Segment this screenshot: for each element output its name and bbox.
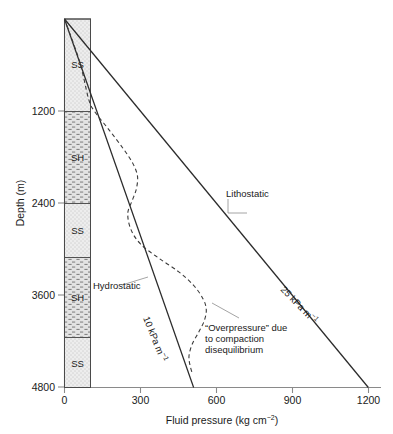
y-tick-label-1200: 1200 [32,105,56,117]
lithology-column: SS SH SS SH SS [65,19,91,388]
x-axis-title: Fluid pressure (kg cm−2) [166,414,278,426]
overpressure-label-line-1: “Overpressure” due [205,322,287,333]
hydrostatic-gradient-value: 10 kPa m [141,315,166,356]
y-axis-ticks: 1200 2400 3600 4800 [32,105,65,393]
x-tick-label-300: 300 [132,394,150,406]
y-tick-label-3600: 3600 [32,289,56,301]
lithology-label-ss-2: SS [71,225,84,236]
x-tick-label-600: 600 [208,394,226,406]
x-axis-ticks: 0 300 600 900 1200 [62,388,381,407]
lithostatic-leader [228,199,247,213]
hydrostatic-gradient-label: 10 kPa m−1 [141,314,170,363]
lithostatic-gradient-label: 25 kPa m−1 [279,283,321,326]
chart-figure: 1200 2400 3600 4800 0 300 600 900 1200 F… [0,0,393,434]
overpressure-label-line-3: disequilibrium [205,344,263,355]
lithology-label-ss-3: SS [71,358,84,369]
x-axis-title-tail: ) [275,414,279,426]
x-tick-label-900: 900 [284,394,302,406]
fluid-pressure-depth-chart: 1200 2400 3600 4800 0 300 600 900 1200 F… [0,0,393,434]
overpressure-label-line-2: to compaction [205,333,264,344]
x-tick-label-0: 0 [62,394,68,406]
lithostatic-label: Lithostatic [226,188,269,199]
annotations: Lithostatic Hydrostatic “Overpressure” d… [93,188,321,363]
y-tick-label-2400: 2400 [32,197,56,209]
lithostatic-gradient-value: 25 kPa m [279,284,315,321]
x-axis-title-superscript: −2 [267,414,275,421]
x-axis-title-main: Fluid pressure (kg cm [166,414,267,426]
lithology-label-sh-1: SH [71,152,84,163]
hydrostatic-label: Hydrostatic [93,280,141,291]
y-tick-label-4800: 4800 [32,381,56,393]
lithology-label-sh-2: SH [71,292,84,303]
overpressure-leader [212,303,239,318]
y-axis-title: Depth (m) [14,180,26,227]
hydrostatic-gradient-superscript: −1 [161,351,171,361]
x-tick-label-1200: 1200 [357,394,381,406]
